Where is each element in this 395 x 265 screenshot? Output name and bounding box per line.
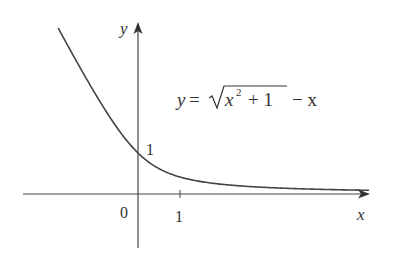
- svg-text:+ 1: + 1: [248, 89, 273, 110]
- svg-text:2: 2: [236, 86, 242, 98]
- x-tick-label-1: 1: [175, 208, 183, 225]
- svg-text:x: x: [224, 89, 234, 110]
- svg-text:y: y: [175, 89, 186, 110]
- y-tick-label-1: 1: [146, 141, 154, 158]
- origin-label: 0: [120, 204, 128, 221]
- equation-label: y = x 2 + 1 − x: [175, 86, 317, 110]
- svg-text:− x: − x: [292, 89, 317, 110]
- y-axis-label: y: [118, 19, 128, 38]
- function-graph: y x 0 1 1 y = x 2 + 1 − x: [0, 0, 395, 265]
- svg-text:=: =: [189, 89, 200, 110]
- function-curve: [58, 28, 369, 190]
- x-axis-label: x: [356, 205, 365, 224]
